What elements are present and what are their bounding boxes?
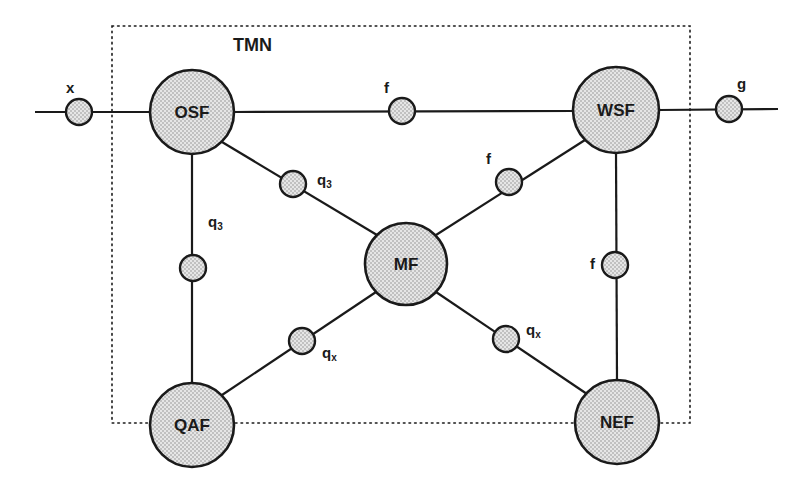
reference-point-label: x xyxy=(66,80,74,95)
reference-point-subscript: 3 xyxy=(326,179,332,190)
reference-point-subscript: x xyxy=(535,329,541,340)
reference-point-label: qx xyxy=(526,322,541,340)
reference-point-name: f xyxy=(384,79,389,96)
reference-point-label: f xyxy=(486,151,491,166)
reference-point-subscript: 3 xyxy=(217,221,223,232)
reference-point-subscript: x xyxy=(331,352,337,363)
function-block-label-mf: MF xyxy=(394,256,419,273)
reference-point-name: g xyxy=(737,75,746,92)
reference-point-name: f xyxy=(590,255,595,272)
reference-point-name: q xyxy=(317,171,326,188)
reference-point-label: qx xyxy=(322,345,337,363)
reference-point-qx-mf-nef xyxy=(493,326,519,352)
reference-point-q3-osf-mf xyxy=(280,171,306,197)
reference-point-label: g xyxy=(737,76,746,91)
function-block-label-qaf: QAF xyxy=(174,417,210,434)
reference-point-label: f xyxy=(590,256,595,271)
reference-point-name: q xyxy=(526,321,535,338)
function-block-label-osf: OSF xyxy=(175,104,210,121)
reference-point-f-wsf-nef xyxy=(602,252,628,278)
reference-point-q3-osf-qaf xyxy=(180,255,206,281)
reference-point-x-ref xyxy=(66,99,92,125)
reference-point-f-osf-wsf xyxy=(389,98,415,124)
reference-point-label: f xyxy=(384,80,389,95)
reference-point-g-ref xyxy=(716,96,742,122)
reference-point-qx-mf-qaf xyxy=(289,328,315,354)
reference-point-label: q3 xyxy=(208,214,223,232)
reference-point-name: q xyxy=(208,213,217,230)
function-block-label-wsf: WSF xyxy=(597,102,635,119)
reference-point-f-wsf-mf xyxy=(496,169,522,195)
reference-point-name: q xyxy=(322,344,331,361)
reference-point-name: x xyxy=(66,79,74,96)
tmn-diagram: TMN xfgq3fq3fqxqxOSFWSFMFQAFNEF xyxy=(0,0,811,492)
diagram-canvas xyxy=(0,0,811,492)
function-block-label-nef: NEF xyxy=(600,414,634,431)
tmn-title: TMN xyxy=(233,36,272,54)
reference-point-label: q3 xyxy=(317,172,332,190)
reference-point-name: f xyxy=(486,150,491,167)
